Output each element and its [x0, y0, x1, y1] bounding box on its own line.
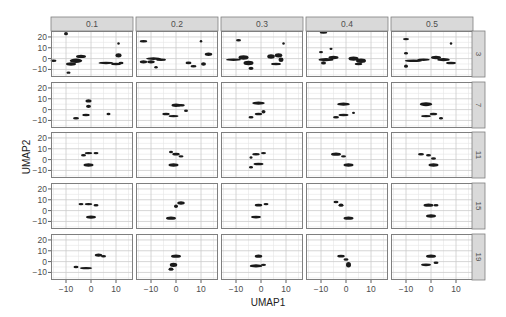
point-cluster	[429, 163, 439, 166]
point-cluster	[172, 153, 180, 156]
facet-panel	[51, 183, 133, 229]
x-tick-label: 10	[281, 284, 291, 294]
point-cluster	[337, 103, 350, 106]
x-tick-label: 10	[196, 284, 206, 294]
facet-panel	[136, 183, 218, 229]
y-tick-label: 20	[38, 133, 48, 143]
y-tick-label: 10	[38, 144, 48, 154]
point-cluster	[267, 54, 275, 58]
point-cluster	[321, 61, 326, 64]
point-cluster	[446, 62, 456, 64]
point-cluster	[404, 65, 408, 68]
y-tick-label: 10	[38, 94, 48, 104]
point-cluster	[154, 66, 158, 68]
point-cluster	[255, 255, 263, 258]
x-tick-label: 0	[259, 284, 264, 294]
facet-panel	[306, 82, 388, 128]
y-axis-title: UMAP2	[21, 139, 32, 174]
point-cluster	[119, 62, 124, 64]
point-cluster	[430, 113, 438, 115]
y-tick-label: 0	[42, 54, 47, 64]
point-cluster	[249, 166, 253, 168]
point-cluster	[200, 40, 203, 42]
x-tick-label: −10	[399, 284, 414, 294]
column-strip-label: 0.1	[86, 19, 98, 29]
chart-canvas: 0.10.20.30.40.5 37111519 −1001020−100102…	[0, 0, 506, 317]
y-tick-label: 10	[38, 246, 48, 256]
point-cluster	[341, 155, 346, 157]
point-cluster	[94, 204, 99, 206]
y-tick-label: 20	[38, 83, 48, 93]
facet-panel	[391, 132, 473, 178]
point-cluster	[186, 62, 192, 65]
point-cluster	[418, 153, 424, 155]
y-tick-label: −10	[33, 64, 48, 74]
point-cluster	[94, 152, 99, 154]
x-tick-label: 0	[89, 284, 94, 294]
facet-panel	[136, 234, 218, 280]
point-cluster	[169, 151, 173, 153]
facet-panel	[221, 183, 303, 229]
point-cluster	[355, 63, 363, 65]
point-cluster	[170, 263, 178, 267]
point-cluster	[179, 155, 184, 157]
point-cluster	[450, 42, 453, 44]
point-cluster	[421, 115, 431, 117]
point-cluster	[319, 51, 323, 53]
row-strip-label: 15	[474, 202, 483, 211]
point-cluster	[344, 258, 349, 260]
y-tick-label: 20	[38, 235, 48, 245]
point-cluster	[329, 56, 339, 59]
y-tick-label: −10	[33, 165, 48, 175]
y-tick-label: 20	[38, 184, 48, 194]
x-tick-label: −10	[229, 284, 244, 294]
row-strip-label: 3	[474, 52, 483, 57]
point-cluster	[74, 266, 79, 268]
point-cluster	[169, 163, 179, 166]
facet-panel	[391, 82, 473, 128]
point-cluster	[116, 53, 122, 57]
facet-panel	[221, 234, 303, 280]
point-cluster	[73, 117, 79, 119]
point-cluster	[255, 113, 263, 115]
point-cluster	[177, 201, 185, 204]
point-cluster	[239, 55, 249, 59]
point-cluster	[331, 153, 341, 156]
y-axes: −1001020−1001020−1001020−1001020−1001020	[33, 32, 51, 277]
y-tick-label: 0	[42, 105, 47, 115]
y-tick-label: 10	[38, 43, 48, 53]
point-cluster	[107, 113, 111, 115]
point-cluster	[201, 62, 206, 65]
y-tick-label: −10	[33, 115, 48, 125]
point-cluster	[156, 58, 166, 60]
x-tick-label: −10	[59, 284, 74, 294]
column-strip-label: 0.5	[426, 19, 438, 29]
point-cluster	[70, 59, 83, 63]
point-cluster	[169, 115, 179, 117]
x-tick-label: 0	[174, 284, 179, 294]
point-cluster	[101, 255, 106, 257]
point-cluster	[82, 114, 90, 116]
column-strip-label: 0.4	[341, 19, 353, 29]
point-cluster	[67, 71, 71, 73]
row-strip-label: 11	[474, 151, 483, 160]
point-cluster	[117, 42, 120, 44]
point-cluster	[279, 57, 284, 61]
facet-panel	[51, 31, 134, 77]
point-cluster	[334, 201, 339, 203]
point-cluster	[344, 217, 354, 220]
point-cluster	[251, 216, 261, 219]
point-cluster	[169, 268, 174, 271]
facet-panel	[391, 31, 473, 77]
point-cluster	[431, 157, 436, 159]
point-cluster	[249, 116, 254, 118]
point-cluster	[339, 114, 349, 116]
x-tick-label: −10	[314, 284, 329, 294]
column-strip: 0.1	[51, 17, 133, 31]
facet-panel	[136, 82, 218, 128]
point-cluster	[404, 52, 408, 54]
y-tick-label: 10	[38, 195, 48, 205]
point-cluster	[147, 60, 155, 63]
row-strip: 3	[472, 31, 485, 77]
point-cluster	[275, 53, 283, 57]
